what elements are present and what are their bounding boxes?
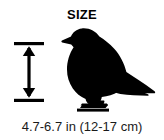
size-infographic-card: SIZE xyxy=(0,0,164,140)
size-caption: 4.7-6.7 in (12-17 cm) xyxy=(0,119,164,135)
vertical-double-arrow-icon xyxy=(12,42,46,102)
bird-silhouette-icon xyxy=(60,26,156,114)
page-title: SIZE xyxy=(0,7,164,22)
illustration-area xyxy=(0,24,164,114)
